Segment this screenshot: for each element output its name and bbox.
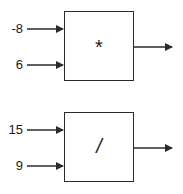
input-label-1b: 6 xyxy=(1,57,23,72)
input-label-1a: -8 xyxy=(1,21,23,36)
operator-multiply: * xyxy=(65,36,133,59)
input-label-2b: 9 xyxy=(1,158,23,173)
operator-divide: / xyxy=(65,135,133,158)
multiply-block: * xyxy=(64,11,134,81)
divide-block: / xyxy=(64,112,134,182)
input-label-2a: 15 xyxy=(1,122,23,137)
